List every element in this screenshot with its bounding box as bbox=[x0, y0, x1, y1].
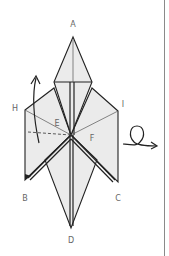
label-e: E bbox=[54, 119, 59, 128]
origami-diagram: A H I E F B C D bbox=[0, 0, 164, 256]
label-a: A bbox=[70, 20, 76, 29]
origami-model bbox=[25, 37, 118, 228]
label-d: D bbox=[68, 236, 74, 245]
divider-line bbox=[164, 0, 165, 256]
label-c: C bbox=[115, 194, 121, 203]
label-b: B bbox=[22, 194, 28, 203]
loop-arrow-turn-over-icon bbox=[123, 126, 157, 149]
label-h: H bbox=[12, 104, 18, 113]
label-f: F bbox=[90, 134, 95, 143]
label-i: I bbox=[122, 100, 124, 109]
